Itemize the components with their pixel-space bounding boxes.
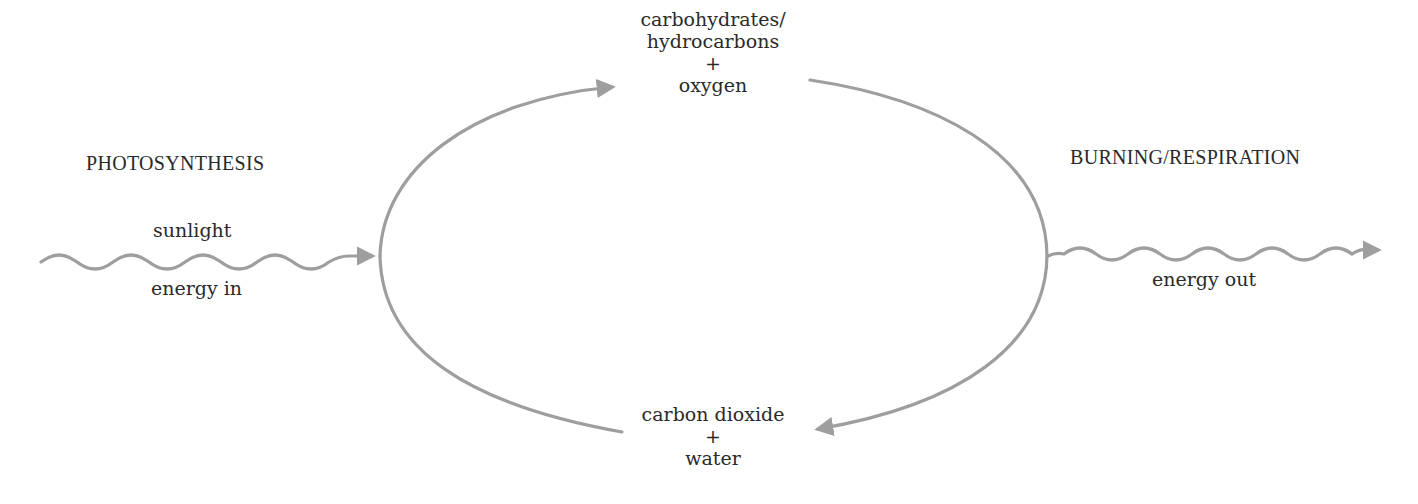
burning-arc-arrow-icon [818,256,1047,429]
node-bottom-line-3: water [600,447,826,469]
sunlight-label: sunlight [153,219,231,241]
burning-respiration-label: BURNING/RESPIRATION [1070,146,1300,168]
energy-in-label: energy in [151,277,242,299]
node-top-line-1: carbohydrates/ [600,8,826,30]
energy-out-label: energy out [1152,268,1256,290]
node-carbohydrates-oxygen: carbohydrates/ hydrocarbons + oxygen [600,8,826,96]
photosynthesis-arc-arrow-icon [380,87,612,256]
photosynthesis-arc-bottom [380,256,622,432]
energy-in-wavy-arrow-icon [41,255,372,269]
node-top-line-2: hydrocarbons [600,30,826,52]
photosynthesis-label: PHOTOSYNTHESIS [86,152,264,174]
energy-out-wavy-arrow-icon [1048,248,1378,260]
burning-arc-top [810,80,1047,256]
node-bottom-line-1: carbon dioxide [600,403,826,425]
node-carbon-dioxide-water: carbon dioxide + water [600,403,826,469]
node-top-plus: + [600,52,826,74]
node-bottom-plus: + [600,425,826,447]
node-top-line-4: oxygen [600,74,826,96]
